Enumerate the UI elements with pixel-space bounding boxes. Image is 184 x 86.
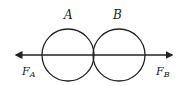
force-b-label: FB xyxy=(155,65,170,79)
force-b-symbol: F xyxy=(155,65,164,78)
two-body-force-diagram: A B FA FB xyxy=(0,0,184,86)
force-a-symbol: F xyxy=(21,65,30,78)
body-a-label: A xyxy=(63,8,73,22)
force-b-subscript: B xyxy=(163,70,170,79)
force-a-label: FA xyxy=(21,65,36,79)
force-a-subscript: A xyxy=(29,70,36,79)
body-b-label: B xyxy=(112,8,122,22)
